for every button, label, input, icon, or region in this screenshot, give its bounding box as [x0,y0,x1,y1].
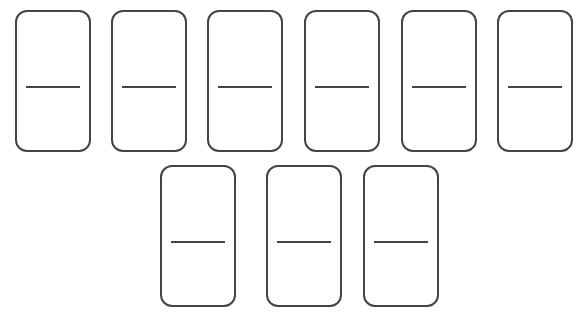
domino-top-half-blank [268,167,340,236]
domino-top-half-blank [209,12,281,81]
domino-5 [401,10,477,152]
domino-bottom-half-blank [113,81,185,150]
domino-3 [207,10,283,152]
domino-bottom-half-blank [499,81,571,150]
domino-top-half-blank [403,12,475,81]
domino-bottom-half-blank [209,81,281,150]
domino-top-half-blank [365,167,437,236]
domino-top-half-blank [162,167,234,236]
domino-4 [304,10,380,152]
domino-1 [15,10,91,152]
domino-7 [160,165,236,307]
domino-top-half-blank [17,12,89,81]
domino-bottom-half-blank [306,81,378,150]
domino-6 [497,10,573,152]
domino-top-half-blank [499,12,571,81]
domino-top-half-blank [113,12,185,81]
domino-top-half-blank [306,12,378,81]
domino-bottom-half-blank [17,81,89,150]
domino-bottom-half-blank [403,81,475,150]
domino-bottom-half-blank [268,236,340,305]
domino-bottom-half-blank [365,236,437,305]
domino-bottom-half-blank [162,236,234,305]
domino-8 [266,165,342,307]
domino-2 [111,10,187,152]
domino-9 [363,165,439,307]
